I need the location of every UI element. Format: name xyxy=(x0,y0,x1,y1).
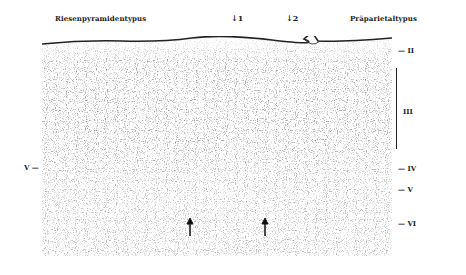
cortex-section-image xyxy=(42,36,392,260)
figure-title-right: Präparietaltypus xyxy=(350,14,417,23)
layer-label-ii: — II xyxy=(398,46,414,55)
layer-label-v: — V xyxy=(398,185,413,194)
figure-title-left: Riesenpyramidentypus xyxy=(55,14,146,23)
layer-bracket-iii xyxy=(396,68,397,149)
marker-1: ↓1 xyxy=(231,13,243,23)
left-layer-label-v: V — xyxy=(24,163,39,172)
layer-label-iv: — IV xyxy=(398,164,416,173)
layer-label-vi: — VI xyxy=(398,219,416,228)
layer-label-iii: III xyxy=(403,107,413,116)
marker-2: ↓2 xyxy=(286,13,298,23)
